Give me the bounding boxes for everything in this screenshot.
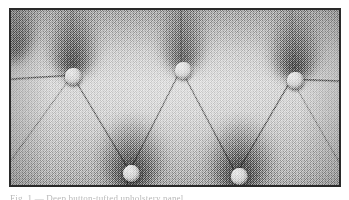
quilt-diamond-highlights bbox=[11, 10, 339, 185]
seam-upper-center-button-to-lower-left-button bbox=[130, 69, 181, 171]
scan-vignette bbox=[11, 10, 339, 185]
halftone-grain-fine bbox=[11, 10, 339, 185]
photo-plate-frame bbox=[9, 8, 341, 187]
funnel-left-edge-shadow bbox=[11, 10, 33, 62]
fabric-tone-gradient bbox=[11, 10, 339, 185]
caption-clipped-strip: Fig. 1 — Deep button-tufted upholstery p… bbox=[10, 193, 340, 200]
seam-left-edge-to-upper-left-button bbox=[11, 75, 72, 79]
tuft-button-upper-center bbox=[175, 62, 192, 79]
tuft-button-lower-left bbox=[123, 165, 140, 182]
tuft-button-upper-left bbox=[65, 68, 82, 85]
seam-upper-left-button-to-lower-left-button bbox=[72, 75, 129, 171]
tuft-button-lower-right bbox=[231, 168, 248, 185]
seam-upper-right-button-to-lower-right-button bbox=[236, 79, 291, 174]
tuft-button-upper-right bbox=[287, 72, 304, 89]
seam-left-edge-lower-diagonal bbox=[11, 75, 72, 160]
seam-upper-center-button-to-lower-right-button bbox=[181, 69, 236, 174]
scan-noise-speckle bbox=[11, 10, 339, 185]
halftone-grain-coarse bbox=[11, 10, 339, 185]
caption-text: Fig. 1 — Deep button-tufted upholstery p… bbox=[10, 193, 340, 200]
tufted-upholstery-photograph bbox=[11, 10, 339, 185]
seam-right-edge-lower-diagonal bbox=[292, 79, 339, 162]
seam-lines bbox=[11, 10, 339, 185]
page-canvas: Fig. 1 — Deep button-tufted upholstery p… bbox=[0, 0, 349, 200]
funnel-upper-right bbox=[266, 10, 324, 80]
tuft-shadow-funnels bbox=[11, 10, 339, 185]
funnel-upper-left bbox=[45, 10, 101, 76]
